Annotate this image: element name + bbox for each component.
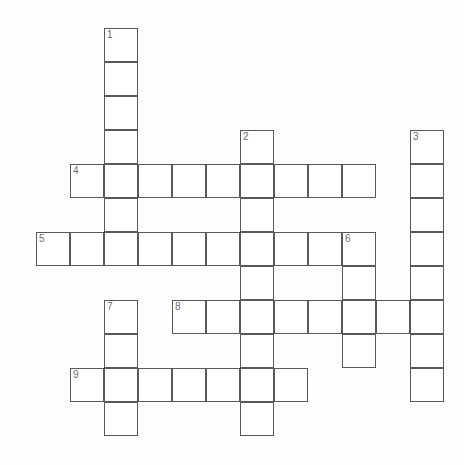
crossword-cell[interactable]: [172, 368, 206, 402]
clue-number-1: 1: [107, 29, 113, 40]
crossword-cell[interactable]: [104, 368, 138, 402]
crossword-cell[interactable]: [138, 368, 172, 402]
crossword-cell[interactable]: [410, 300, 444, 334]
crossword-cell[interactable]: 6: [342, 232, 376, 266]
crossword-cell[interactable]: [172, 232, 206, 266]
crossword-cell[interactable]: [240, 232, 274, 266]
crossword-cell[interactable]: [206, 164, 240, 198]
crossword-cell[interactable]: [104, 402, 138, 436]
crossword-cell[interactable]: [342, 334, 376, 368]
crossword-cell[interactable]: [240, 164, 274, 198]
crossword-cell[interactable]: [206, 368, 240, 402]
crossword-cell[interactable]: [104, 62, 138, 96]
clue-number-8: 8: [175, 301, 181, 312]
crossword-cell[interactable]: 9: [70, 368, 104, 402]
crossword-cell[interactable]: [240, 334, 274, 368]
clue-number-9: 9: [73, 369, 79, 380]
crossword-cell[interactable]: [410, 164, 444, 198]
crossword-cell[interactable]: [274, 300, 308, 334]
crossword-cell[interactable]: [274, 164, 308, 198]
crossword-cell[interactable]: [410, 266, 444, 300]
crossword-cell[interactable]: [410, 232, 444, 266]
crossword-cell[interactable]: [240, 266, 274, 300]
crossword-cell[interactable]: [342, 266, 376, 300]
clue-number-7: 7: [107, 301, 113, 312]
crossword-cell[interactable]: [274, 368, 308, 402]
clue-number-4: 4: [73, 165, 79, 176]
clue-number-5: 5: [39, 233, 45, 244]
crossword-cell[interactable]: [104, 334, 138, 368]
crossword-cell[interactable]: 5: [36, 232, 70, 266]
crossword-cell[interactable]: [308, 300, 342, 334]
crossword-cell[interactable]: 3: [410, 130, 444, 164]
crossword-cell[interactable]: 8: [172, 300, 206, 334]
crossword-puzzle: 123456789: [0, 0, 464, 465]
crossword-cell[interactable]: [206, 300, 240, 334]
crossword-cell[interactable]: [342, 164, 376, 198]
crossword-cell[interactable]: [70, 232, 104, 266]
crossword-cell[interactable]: [240, 368, 274, 402]
clue-number-6: 6: [345, 233, 351, 244]
crossword-cell[interactable]: [104, 232, 138, 266]
crossword-cell[interactable]: [410, 368, 444, 402]
crossword-cell[interactable]: [410, 334, 444, 368]
crossword-cell[interactable]: [206, 232, 240, 266]
crossword-cell[interactable]: [104, 96, 138, 130]
crossword-cell[interactable]: [138, 164, 172, 198]
crossword-cell[interactable]: [376, 300, 410, 334]
crossword-cell[interactable]: [138, 232, 172, 266]
crossword-cell[interactable]: [274, 232, 308, 266]
crossword-cell[interactable]: [308, 232, 342, 266]
clue-number-3: 3: [413, 131, 419, 142]
crossword-cell[interactable]: [342, 300, 376, 334]
crossword-cell[interactable]: 1: [104, 28, 138, 62]
crossword-cell[interactable]: [308, 164, 342, 198]
crossword-cell[interactable]: 4: [70, 164, 104, 198]
crossword-cell[interactable]: [240, 300, 274, 334]
crossword-cell[interactable]: [240, 402, 274, 436]
crossword-cell[interactable]: [104, 198, 138, 232]
crossword-grid[interactable]: 123456789: [0, 0, 464, 465]
crossword-cell[interactable]: [104, 130, 138, 164]
crossword-cell[interactable]: [240, 198, 274, 232]
crossword-cell[interactable]: [172, 164, 206, 198]
crossword-cell[interactable]: 2: [240, 130, 274, 164]
crossword-cell[interactable]: [410, 198, 444, 232]
clue-number-2: 2: [243, 131, 249, 142]
crossword-cell[interactable]: 7: [104, 300, 138, 334]
crossword-cell[interactable]: [104, 164, 138, 198]
